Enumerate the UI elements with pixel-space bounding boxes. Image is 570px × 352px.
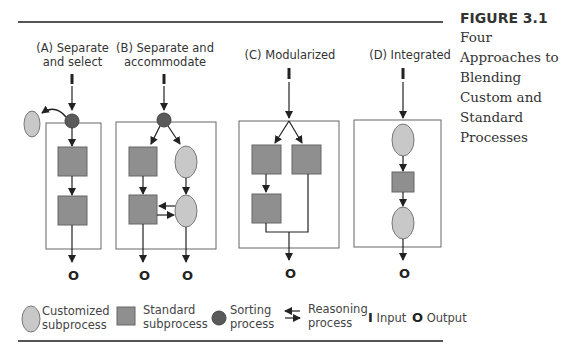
panel-b-output-1: O bbox=[139, 268, 150, 283]
panel-b-diagram bbox=[116, 74, 216, 262]
panel-b-box bbox=[116, 122, 216, 249]
diagram-canvas bbox=[0, 0, 570, 352]
panel-b-output-2: O bbox=[182, 268, 193, 283]
standard-subprocess bbox=[392, 172, 414, 192]
input-symbol bbox=[163, 74, 166, 84]
standard-subprocess bbox=[129, 147, 157, 176]
customized-subprocess bbox=[175, 146, 197, 178]
legend-customized-label: Customizedsubprocess bbox=[42, 304, 110, 332]
input-symbol: I bbox=[368, 310, 373, 325]
standard-subprocess bbox=[58, 147, 87, 176]
panel-d-diagram bbox=[354, 68, 441, 260]
customized-subprocess bbox=[392, 207, 414, 239]
panel-c-box bbox=[239, 121, 339, 248]
legend-sorting-label: Sortingprocess bbox=[230, 303, 274, 331]
customized-subprocess bbox=[175, 195, 197, 227]
panel-d-output: O bbox=[399, 266, 410, 281]
sorting-process bbox=[157, 113, 171, 127]
legend-standard-icon bbox=[117, 307, 135, 325]
panel-a-box bbox=[46, 123, 101, 249]
legend-sorting-icon bbox=[212, 311, 226, 325]
standard-subprocess bbox=[58, 196, 87, 225]
input-symbol bbox=[402, 68, 405, 79]
customized-subprocess bbox=[392, 124, 414, 156]
standard-subprocess bbox=[292, 145, 321, 174]
standard-subprocess bbox=[129, 195, 157, 224]
customized-subprocess bbox=[24, 111, 40, 137]
standard-subprocess bbox=[252, 194, 281, 223]
legend-output: O Output bbox=[412, 311, 467, 325]
output-symbol: O bbox=[412, 310, 423, 325]
sorting-process bbox=[65, 114, 79, 128]
panel-c-output: O bbox=[285, 266, 296, 281]
legend-input: I Input bbox=[368, 311, 406, 325]
legend-standard-label: Standardsubprocess bbox=[143, 303, 208, 331]
input-symbol bbox=[71, 74, 74, 84]
panel-a-output: O bbox=[68, 268, 79, 283]
legend-customized-icon bbox=[22, 306, 40, 332]
panel-a-diagram bbox=[24, 74, 101, 262]
input-symbol bbox=[288, 68, 291, 79]
standard-subprocess bbox=[252, 145, 281, 174]
legend-reasoning-label: Reasoningprocess bbox=[308, 302, 368, 330]
panel-c-diagram bbox=[239, 68, 339, 260]
